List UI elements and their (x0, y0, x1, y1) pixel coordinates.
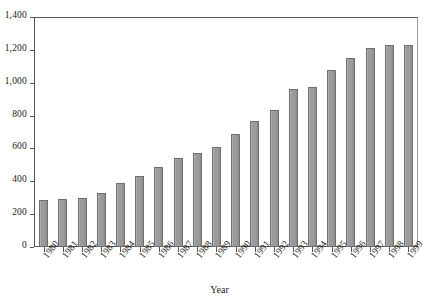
bar (116, 183, 125, 247)
y-axis-tick-mark (30, 247, 34, 248)
bar (308, 87, 317, 247)
bar (231, 134, 240, 247)
bar (154, 167, 163, 248)
bar (135, 176, 144, 247)
bar (58, 199, 67, 247)
bar (97, 193, 106, 247)
bar (289, 89, 298, 247)
y-axis-tick-label: 0 (22, 240, 27, 250)
bar-series (34, 17, 418, 247)
bar (346, 58, 355, 247)
bar (366, 48, 375, 247)
bar (39, 200, 48, 247)
bar (270, 110, 279, 247)
bar (78, 198, 87, 247)
bar (327, 70, 336, 247)
bar (174, 158, 183, 247)
bar (193, 153, 202, 247)
bar (404, 45, 413, 247)
y-axis-tick-label: 1,400 (5, 10, 27, 20)
y-axis-tick-label: 800 (12, 109, 27, 119)
bar (385, 45, 394, 247)
bar-chart: 02004006008001,0001,2001,400 19801981198… (0, 0, 439, 303)
bar (212, 147, 221, 247)
bar (250, 121, 259, 247)
y-axis-tick-label: 200 (12, 207, 27, 217)
y-axis-tick-label: 1,200 (5, 43, 27, 53)
x-axis-title: Year (0, 284, 439, 295)
y-axis-tick-label: 600 (12, 141, 27, 151)
y-axis-tick-label: 1,000 (5, 76, 27, 86)
y-axis-tick-label: 400 (12, 174, 27, 184)
